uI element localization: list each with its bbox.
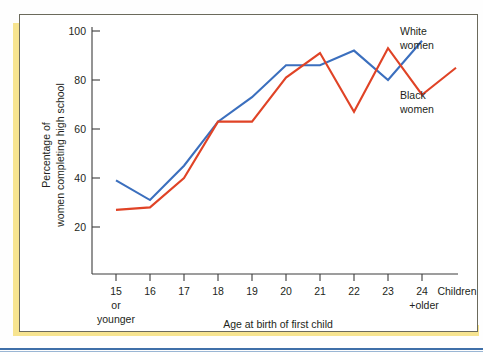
x-tick-label-18: 18 xyxy=(212,285,224,297)
legend-label-black-line1: Black xyxy=(400,89,426,101)
y-tick-label-80: 80 xyxy=(74,74,86,86)
x-tick-label-children: Children xyxy=(437,285,476,297)
y-tick-label-40: 40 xyxy=(74,172,86,184)
x-tick-sublabel-24: +older xyxy=(409,299,439,311)
y-axis-title-line1: Percentage of xyxy=(40,122,52,187)
page-rule-secondary xyxy=(0,351,483,352)
legend-label-white-line2: women xyxy=(399,39,434,51)
legend-white-women: White women xyxy=(399,25,434,51)
y-axis-title-line2: women completing high school xyxy=(54,83,66,228)
x-axis-title: Age at birth of first child xyxy=(223,318,333,330)
x-tick-label-20: 20 xyxy=(280,285,292,297)
x-tick-label-22: 22 xyxy=(348,285,360,297)
legend-black-women: Black women xyxy=(399,89,434,115)
x-tick-label-24: 24 xyxy=(416,285,428,297)
line-chart: 100 80 60 40 20 15 xyxy=(20,15,479,333)
x-tick-label-21: 21 xyxy=(314,285,326,297)
y-axis-tick-labels: 100 80 60 40 20 xyxy=(68,25,86,233)
figure-root: 100 80 60 40 20 15 xyxy=(0,0,483,355)
x-tick-label-19: 19 xyxy=(246,285,258,297)
x-axis-ticks xyxy=(116,274,422,281)
y-axis-ticks xyxy=(92,31,100,227)
x-tick-label-17: 17 xyxy=(178,285,190,297)
x-tick-label-15: 15 xyxy=(110,285,122,297)
y-tick-label-20: 20 xyxy=(74,221,86,233)
x-tick-sublabel-15-line2: younger xyxy=(97,313,135,325)
x-tick-label-16: 16 xyxy=(144,285,156,297)
figure-frame: 100 80 60 40 20 15 xyxy=(19,14,478,332)
x-tick-label-23: 23 xyxy=(382,285,394,297)
series-line-white-women xyxy=(116,41,422,200)
page-rule-primary xyxy=(0,348,483,350)
y-tick-label-100: 100 xyxy=(68,25,86,37)
legend-label-white-line1: White xyxy=(400,25,427,37)
legend-label-black-line2: women xyxy=(399,103,434,115)
series-line-black-women xyxy=(116,48,456,210)
x-tick-sublabel-15-line1: or xyxy=(111,299,121,311)
y-tick-label-60: 60 xyxy=(74,123,86,135)
